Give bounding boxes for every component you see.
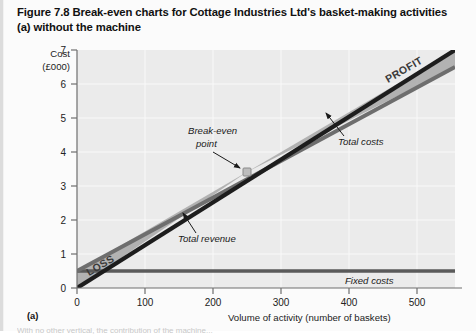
y-tick-label-3: 3 [60, 181, 66, 192]
y-axis-ticks [71, 50, 77, 288]
y-tick-label-0: 0 [60, 283, 66, 294]
x-tick-label-0: 0 [74, 297, 80, 308]
y-tick-label-1: 1 [60, 249, 66, 260]
x-tick-label-200: 200 [205, 297, 222, 308]
y-tick-label-4: 4 [60, 147, 66, 158]
x-tick-label-300: 300 [273, 297, 290, 308]
x-tick-label-400: 400 [341, 297, 358, 308]
break-even-marker [243, 168, 251, 176]
y-tick-label-2: 2 [60, 215, 66, 226]
x-tick-label-100: 100 [137, 297, 154, 308]
y-tick-label-7: 7 [60, 45, 66, 56]
fixed-costs-annotation: Fixed costs [345, 275, 394, 286]
break-even-annotation-line1: Break-even [188, 125, 237, 136]
y-tick-label-6: 6 [60, 79, 66, 90]
total-costs-annotation: Total costs [338, 136, 384, 147]
total-revenue-annotation: Total revenue [178, 233, 236, 244]
x-axis-ticks [77, 288, 417, 294]
break-even-annotation-line2: point [195, 138, 217, 149]
x-tick-label-500: 500 [409, 297, 426, 308]
y-tick-label-5: 5 [60, 113, 66, 124]
